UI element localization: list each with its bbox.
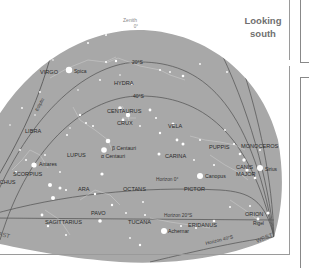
constellation-canis: CANIS xyxy=(236,164,253,170)
constellation-pavo: PAVO xyxy=(91,210,106,216)
constellation-virgo: VIRGO xyxy=(40,69,59,75)
constellation-major: MAJOR xyxy=(236,171,256,177)
view-direction-title: Looking south xyxy=(228,14,298,40)
star-canopus xyxy=(197,173,203,179)
constellation-eridanus: ERIDANUS xyxy=(188,222,217,228)
constellation-lupus: LUPUS xyxy=(67,152,86,158)
constellation-sagittarius: SAGITTARIUS xyxy=(45,219,82,225)
constellation-ophiuchus: OPHIUCHUS xyxy=(0,179,16,185)
star-label-sirius: Sirius xyxy=(265,167,278,172)
constellation-scorpius: SCORPIUS xyxy=(13,171,42,177)
constellation-tucana: TUCANA xyxy=(128,219,151,225)
constellation-puppis: PUPPIS xyxy=(209,144,230,150)
frame-divider xyxy=(0,254,290,255)
star-label-rigel: Rigel xyxy=(253,221,264,226)
constellation-ara: ARA xyxy=(78,186,90,192)
star-beta-centauri xyxy=(106,139,111,144)
constellation-octans: OCTANS xyxy=(123,186,146,192)
constellation-pictor: PICTOR xyxy=(184,186,205,192)
title-line-1: Looking xyxy=(228,14,298,27)
frame-divider xyxy=(289,66,290,254)
zenith-value: 0° xyxy=(134,24,139,29)
star-antares xyxy=(31,162,36,167)
altitude-label-40: 40°S xyxy=(133,93,145,99)
constellation-hydra: HYDRA xyxy=(114,80,134,86)
zenith-label: Zenith xyxy=(123,17,137,23)
constellation-monoceros: MONOCEROS xyxy=(241,143,279,149)
star-alpha-centauri xyxy=(101,147,107,153)
star-label-antares: Antares xyxy=(39,161,57,167)
horizon-label-20: Horizon 20°S xyxy=(164,213,192,218)
constellation-vela: VELA xyxy=(168,123,183,129)
adjacent-panel xyxy=(300,77,309,268)
frame-divider xyxy=(289,0,290,60)
constellation-orion: ORION xyxy=(245,211,263,217)
star-sirius xyxy=(257,165,263,171)
altitude-label-20: 20°S xyxy=(132,59,144,65)
constellation-centaurus: CENTAURUS xyxy=(107,108,142,114)
horizon-label-0: Horizon 0° xyxy=(156,177,179,182)
constellation-crux: CRUX xyxy=(117,120,133,126)
adjacent-panel xyxy=(300,0,309,63)
star-label-achernar: Achernar xyxy=(168,228,189,234)
star-spica xyxy=(66,67,72,73)
star-label-beta-centauri: β Centauri xyxy=(112,145,136,151)
title-line-2: south xyxy=(228,27,298,40)
star-label-canopus: Canopus xyxy=(205,173,226,179)
star-achernar xyxy=(161,228,167,234)
star-label-alpha-centauri: α Centauri xyxy=(101,153,125,159)
constellation-carina: CARINA xyxy=(165,153,186,159)
constellation-libra: LIBRA xyxy=(25,128,41,134)
star-label-spica: Spica xyxy=(74,68,87,74)
